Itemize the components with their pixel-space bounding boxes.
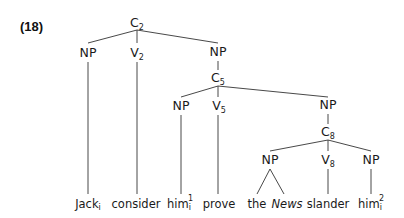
node-np-embedded: NP xyxy=(320,97,337,112)
svg-text:NP: NP xyxy=(210,44,227,59)
node-c8: C8 xyxy=(321,124,335,141)
node-c5: C5 xyxy=(211,70,225,87)
svg-text:NP: NP xyxy=(262,152,279,167)
svg-text:NP: NP xyxy=(173,98,190,113)
leaf-slander: slander xyxy=(307,197,350,211)
leaf-him-2: himi2 xyxy=(358,194,384,212)
leaf-news: News xyxy=(271,197,302,211)
svg-text:V5: V5 xyxy=(212,98,226,115)
svg-text:NP: NP xyxy=(363,152,380,167)
example-number: (18) xyxy=(20,19,43,34)
leaf-consider: consider xyxy=(112,197,161,211)
leaf-prove: prove xyxy=(203,197,236,211)
leaf-him-1: himi1 xyxy=(167,194,193,212)
svg-text:NP: NP xyxy=(80,45,97,60)
svg-text:V8: V8 xyxy=(321,152,335,169)
node-v8: V8 xyxy=(321,152,335,169)
syntax-tree-diagram: (18) C2 NP V2 xyxy=(0,0,404,218)
leaf-jack: Jacki xyxy=(74,197,101,212)
svg-text:C2: C2 xyxy=(130,15,144,32)
node-np-the-news: NP xyxy=(262,152,279,167)
node-np-him1: NP xyxy=(173,98,190,113)
node-np-subject: NP xyxy=(80,45,97,60)
node-np-complement: NP xyxy=(210,44,227,59)
svg-text:V2: V2 xyxy=(130,45,144,62)
leaf-the: the xyxy=(248,197,267,211)
node-c2: C2 xyxy=(130,15,144,32)
node-v2: V2 xyxy=(130,45,144,62)
node-np-him2: NP xyxy=(363,152,380,167)
svg-text:C5: C5 xyxy=(211,70,225,87)
leaf-words: Jacki consider himi1 prove the News slan… xyxy=(74,194,384,212)
svg-text:C8: C8 xyxy=(321,124,335,141)
svg-text:NP: NP xyxy=(320,97,337,112)
node-v5: V5 xyxy=(212,98,226,115)
